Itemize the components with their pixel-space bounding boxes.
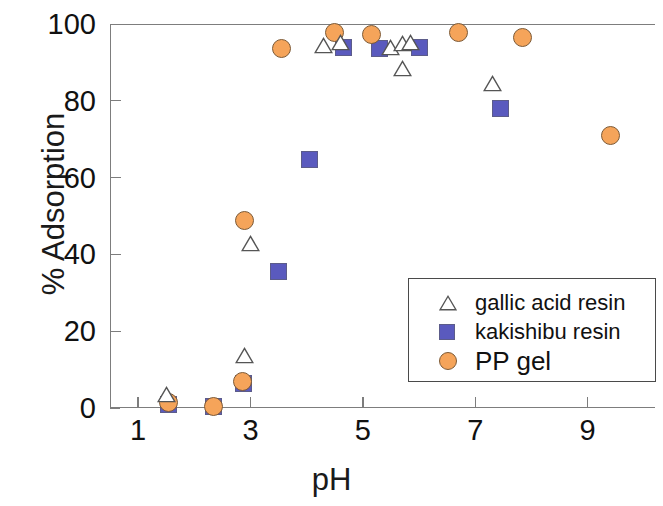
chart-figure: % Adsorption pH 100806040200 13579 galli… <box>0 0 663 506</box>
x-tick-label-1: 1 <box>108 414 168 447</box>
legend-label-triangle: gallic acid resin <box>475 290 625 316</box>
data-point-circle <box>233 372 252 391</box>
legend-item-circle[interactable]: PP gel <box>409 346 655 376</box>
y-tick-label-100: 100 <box>26 8 96 41</box>
chart-legend: gallic acid resinkakishibu resinPP gel <box>408 278 656 382</box>
data-point-triangle <box>331 33 350 52</box>
y-tick-20 <box>110 331 121 332</box>
data-point-square <box>301 151 318 168</box>
data-point-triangle <box>393 59 412 78</box>
legend-item-square[interactable]: kakishibu resin <box>409 317 655 347</box>
x-tick-label-7: 7 <box>445 414 505 447</box>
x-tick-9 <box>587 397 588 408</box>
legend-item-triangle[interactable]: gallic acid resin <box>409 288 655 318</box>
y-tick-label-20: 20 <box>26 315 96 348</box>
x-tick-label-5: 5 <box>333 414 393 447</box>
y-tick-40 <box>110 254 121 255</box>
y-tick-0 <box>110 407 120 408</box>
data-point-circle <box>601 126 620 145</box>
x-tick-1 <box>137 397 138 408</box>
legend-marker-circle <box>439 352 457 370</box>
data-point-triangle <box>401 33 420 52</box>
data-point-square <box>270 263 287 280</box>
x-axis-title: pH <box>0 462 663 498</box>
legend-marker-triangle <box>439 294 457 312</box>
legend-label-circle: PP gel <box>475 346 551 377</box>
data-point-triangle <box>241 234 260 253</box>
x-tick-7 <box>475 397 476 408</box>
x-tick-5 <box>362 397 363 408</box>
data-point-triangle <box>235 346 254 365</box>
legend-marker-square <box>439 324 455 340</box>
x-tick-label-9: 9 <box>558 414 618 447</box>
y-tick-label-0: 0 <box>26 392 96 425</box>
x-tick-3 <box>250 397 251 408</box>
legend-label-square: kakishibu resin <box>475 319 621 345</box>
data-point-triangle <box>483 74 502 93</box>
data-point-square <box>492 100 509 117</box>
data-point-circle <box>362 25 381 44</box>
y-tick-60 <box>110 177 121 178</box>
x-tick-label-3: 3 <box>220 414 280 447</box>
y-tick-label-40: 40 <box>26 238 96 271</box>
data-point-circle <box>449 23 468 42</box>
y-tick-80 <box>110 100 121 101</box>
data-point-triangle <box>157 385 176 404</box>
y-tick-label-80: 80 <box>26 84 96 117</box>
y-tick-label-60: 60 <box>26 161 96 194</box>
